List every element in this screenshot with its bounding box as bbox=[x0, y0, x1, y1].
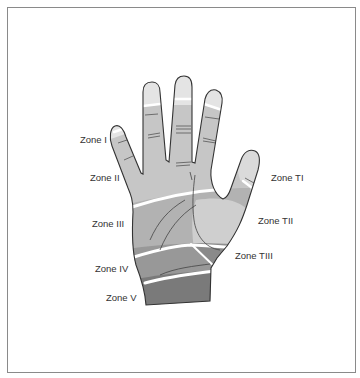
label-zone-iv: Zone IV bbox=[95, 264, 128, 274]
label-zone-ti: Zone TI bbox=[271, 173, 304, 183]
hand-diagram bbox=[0, 0, 360, 378]
label-zone-tii: Zone TII bbox=[258, 216, 293, 226]
label-zone-ii: Zone II bbox=[90, 173, 120, 183]
label-zone-tiii: Zone TIII bbox=[235, 251, 273, 261]
label-zone-i: Zone I bbox=[80, 135, 107, 145]
label-zone-iii: Zone III bbox=[92, 219, 124, 229]
label-zone-v: Zone V bbox=[106, 293, 137, 303]
